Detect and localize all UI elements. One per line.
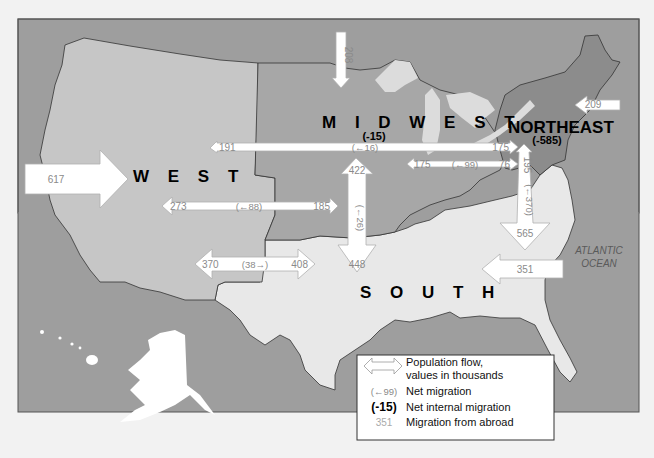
flow-value-422: 422 [349, 165, 366, 176]
region-label-south: S O U T H [360, 283, 501, 302]
flow-value-565: 565 [517, 228, 534, 239]
midwest-net-internal: (-15) [362, 130, 386, 142]
hawaii-island [70, 342, 73, 345]
flow-value-208: 208 [343, 47, 354, 64]
migration-map: 617 208 209 351 191 (←16) 175 175 (←99) … [0, 0, 654, 458]
hawaii-island [40, 330, 44, 334]
hawaii-big-island [86, 355, 98, 365]
flow-value-195: 195 [522, 157, 533, 174]
flow-value-617: 617 [48, 174, 65, 185]
legend-net-migration-label: Net migration [406, 385, 471, 397]
legend-abroad-symbol: 351 [376, 417, 393, 428]
flow-value-273: 273 [170, 201, 187, 212]
net-migration-99: (←99) [452, 159, 478, 170]
legend: Population flow, values in thousands (←9… [357, 355, 554, 440]
flow-value-351: 351 [517, 264, 534, 275]
legend-net-internal-symbol: (-15) [371, 400, 396, 414]
region-label-west: W E S T [133, 167, 245, 186]
flow-value-191: 191 [219, 142, 236, 153]
net-migration-26: (←26) [355, 205, 366, 231]
flow-value-175-ne: 175 [492, 142, 509, 153]
hawaii-island [79, 347, 82, 350]
legend-flow-line2: values in thousands [406, 369, 504, 381]
flow-value-185: 185 [313, 201, 330, 212]
flow-value-408: 408 [291, 259, 308, 270]
legend-abroad-label: Migration from abroad [406, 416, 514, 428]
legend-flow-line1: Population flow, [406, 356, 483, 368]
legend-net-internal-label: Net internal migration [406, 401, 511, 413]
net-migration-88: (←88) [236, 201, 262, 212]
flow-value-448: 448 [349, 259, 366, 270]
flow-value-175-mw: 175 [414, 159, 431, 170]
legend-net-migration-symbol: (←99) [371, 386, 397, 397]
ocean-label-line1: ATLANTIC [574, 245, 623, 256]
net-migration-38: (38→) [242, 259, 268, 270]
ocean-label-line2: OCEAN [581, 258, 617, 269]
net-migration-370: (←370) [524, 184, 535, 216]
flow-value-76: 76 [499, 159, 511, 170]
hawaii-island [58, 336, 61, 339]
net-migration-16: (←16) [352, 142, 378, 153]
northeast-net-internal: (-585) [532, 134, 562, 146]
region-label-midwest: M I D W E S T [322, 113, 522, 132]
flow-value-209: 209 [585, 99, 602, 110]
flow-value-370: 370 [202, 259, 219, 270]
